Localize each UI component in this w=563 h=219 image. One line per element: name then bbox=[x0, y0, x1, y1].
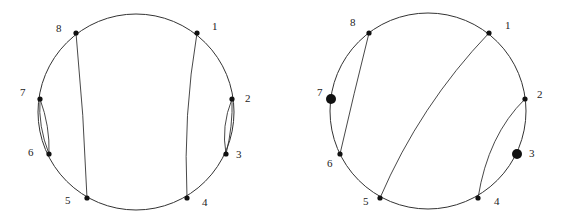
point-label-3: 3 bbox=[236, 148, 242, 160]
right-chord-diagram: 12345678 bbox=[317, 13, 543, 209]
point-2 bbox=[522, 96, 527, 101]
chord-2-4 bbox=[478, 99, 525, 198]
chord-1-4 bbox=[186, 33, 197, 198]
point-1 bbox=[486, 30, 491, 35]
point-label-5: 5 bbox=[363, 195, 369, 207]
point-7 bbox=[37, 96, 42, 101]
point-label-2: 2 bbox=[537, 88, 543, 100]
point-8 bbox=[73, 30, 78, 35]
chord-diagrams: 12345678 12345678 bbox=[0, 0, 563, 219]
point-4 bbox=[184, 195, 189, 200]
point-3 bbox=[512, 149, 522, 159]
left-chord-diagram: 12345678 bbox=[20, 14, 251, 210]
chord-8-6 bbox=[340, 33, 369, 154]
point-label-1: 1 bbox=[505, 19, 511, 31]
point-4 bbox=[475, 195, 480, 200]
point-label-8: 8 bbox=[350, 16, 356, 28]
point-label-4: 4 bbox=[202, 196, 208, 208]
point-7 bbox=[326, 94, 336, 104]
point-label-7: 7 bbox=[317, 86, 323, 98]
point-label-5: 5 bbox=[65, 194, 71, 206]
point-label-6: 6 bbox=[327, 157, 333, 169]
point-6 bbox=[46, 151, 51, 156]
point-6 bbox=[337, 151, 342, 156]
chord-8-5 bbox=[76, 33, 87, 198]
outer-circle bbox=[330, 13, 526, 209]
point-3 bbox=[223, 151, 228, 156]
point-5 bbox=[84, 195, 89, 200]
point-label-4: 4 bbox=[494, 195, 500, 207]
point-label-6: 6 bbox=[28, 146, 34, 158]
point-1 bbox=[194, 30, 199, 35]
outer-circle bbox=[38, 14, 234, 210]
point-8 bbox=[366, 30, 371, 35]
chord-1-5 bbox=[380, 33, 489, 198]
point-label-7: 7 bbox=[20, 86, 26, 98]
point-label-8: 8 bbox=[56, 22, 62, 34]
point-2 bbox=[229, 96, 234, 101]
point-5 bbox=[377, 195, 382, 200]
point-label-1: 1 bbox=[212, 20, 218, 32]
point-label-3: 3 bbox=[529, 147, 535, 159]
point-label-2: 2 bbox=[245, 92, 251, 104]
